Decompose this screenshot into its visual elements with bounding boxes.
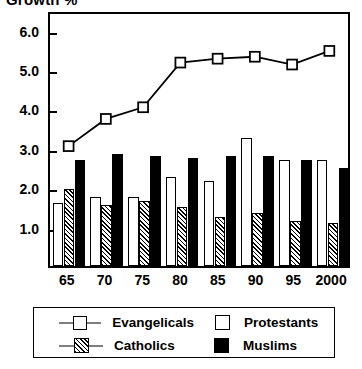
x-tick-label: 2000: [316, 272, 347, 288]
legend-label: Catholics: [114, 338, 175, 353]
legend-item-muslims: Muslims: [193, 333, 334, 358]
legend-row: Evangelicals Protestants: [34, 310, 334, 335]
x-tick-label: 70: [97, 272, 113, 288]
bar-protestants: [53, 203, 64, 266]
open-square-icon: [215, 315, 230, 330]
solid-black-square-icon: [214, 338, 229, 353]
bar-muslims: [226, 156, 237, 266]
bar-group: [241, 14, 274, 266]
y-tick-label: 3.0: [20, 142, 39, 158]
legend-item-catholics: Catholics: [34, 333, 193, 358]
bar-protestants: [279, 160, 290, 266]
bar-muslims: [150, 156, 161, 266]
y-tick-label: 4.0: [20, 102, 39, 118]
bar-group: [90, 14, 123, 266]
plot-inner: [50, 14, 348, 266]
bar-group: [204, 14, 237, 266]
bar-catholics: [252, 213, 263, 266]
bar-muslims: [339, 168, 350, 266]
y-axis: 1.02.03.04.05.06.0: [0, 12, 48, 268]
legend-label: Evangelicals: [112, 315, 194, 330]
y-tick-label: 6.0: [20, 24, 39, 40]
chart-legend: Evangelicals Protestants Catholics Musli…: [33, 307, 335, 358]
bar-protestants: [204, 181, 215, 266]
y-tick-label: 5.0: [20, 63, 39, 79]
bar-catholics: [139, 201, 150, 266]
x-tick-label: 90: [248, 272, 264, 288]
bar-muslims: [263, 156, 274, 266]
bar-muslims: [188, 158, 199, 266]
legend-row: Catholics Muslims: [34, 333, 334, 358]
bar-catholics: [177, 207, 188, 266]
bar-group: [53, 14, 86, 266]
bar-catholics: [101, 205, 112, 266]
legend-item-protestants: Protestants: [194, 310, 334, 335]
plot-area: [48, 12, 350, 268]
bar-catholics: [64, 189, 75, 266]
x-tick-label: 80: [172, 272, 188, 288]
y-tick-label: 2.0: [20, 181, 39, 197]
hatched-square-icon: [59, 338, 103, 353]
bar-group: [279, 14, 312, 266]
x-tick-label: 65: [59, 272, 75, 288]
bar-protestants: [90, 197, 101, 266]
legend-item-evangelicals: Evangelicals: [34, 310, 194, 335]
bar-muslims: [301, 160, 312, 266]
bar-group: [128, 14, 161, 266]
x-tick-label: 85: [210, 272, 226, 288]
bar-catholics: [215, 217, 226, 266]
bar-muslims: [75, 160, 86, 266]
x-axis: 657075808590952000: [48, 272, 350, 296]
bar-protestants: [128, 197, 139, 266]
legend-label: Protestants: [244, 315, 318, 330]
chart-title: Growth %: [6, 0, 78, 8]
bar-protestants: [166, 177, 177, 266]
bar-protestants: [317, 160, 328, 266]
x-tick-label: 75: [135, 272, 151, 288]
bar-group: [317, 14, 350, 266]
x-tick-label: 95: [286, 272, 302, 288]
bar-muslims: [112, 154, 123, 266]
legend-label: Muslims: [243, 338, 297, 353]
line-open-square-marker-icon: [59, 315, 101, 330]
bar-catholics: [290, 221, 301, 266]
bar-catholics: [328, 223, 339, 266]
bar-protestants: [241, 138, 252, 266]
y-tick-label: 1.0: [20, 221, 39, 237]
bar-group: [166, 14, 199, 266]
